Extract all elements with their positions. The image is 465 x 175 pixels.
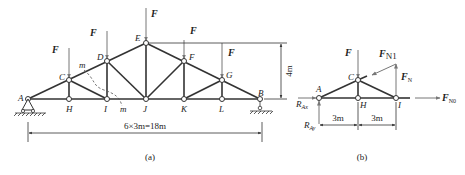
node-label-H: H xyxy=(65,104,73,114)
fb-dim-right-label: 3m xyxy=(371,113,383,123)
span-dimension: 6×3m=18m xyxy=(28,121,262,142)
load-label-F: F xyxy=(189,25,197,36)
section-label-top: m xyxy=(79,60,86,70)
node-H xyxy=(67,97,72,102)
free-body-b: F FN1 FN FN0 RAx RAy A C H I 3m 3m (b) xyxy=(295,47,456,162)
height-dimension: 4m xyxy=(148,43,294,99)
fb-node-label-A: A xyxy=(315,84,322,94)
span-dimension-label: 6×3m=18m xyxy=(124,121,166,131)
load-label-D: F xyxy=(89,27,97,38)
fb-reaction-x-label: RAx xyxy=(295,99,308,110)
top-chord-right xyxy=(146,43,260,99)
fb-node-label-H: H xyxy=(359,100,367,110)
top-chord-left xyxy=(28,43,146,99)
member-GK xyxy=(184,80,222,99)
fb-node-A xyxy=(317,96,322,101)
node-G xyxy=(220,78,225,83)
fb-node-label-I: I xyxy=(397,100,402,110)
node-label-L: L xyxy=(218,104,224,114)
node-label-I: I xyxy=(103,104,108,114)
fb-member-AC xyxy=(319,80,358,98)
node-label-E: E xyxy=(134,33,141,43)
fb-node-label-C: C xyxy=(348,72,355,82)
fb-member-CI xyxy=(358,80,396,98)
truss-diagram-svg: m m F F F F F A H I J K L B C D E xyxy=(0,0,465,175)
node-label-K: K xyxy=(180,104,188,114)
node-E xyxy=(144,41,149,46)
load-label-E: F xyxy=(150,8,158,19)
section-label-bottom: m xyxy=(120,104,127,114)
node-F xyxy=(182,59,187,64)
fb-reaction-y-label: RAy xyxy=(303,120,316,131)
fb-force-N0-label: FN0 xyxy=(441,92,456,104)
height-dimension-label: 4m xyxy=(284,65,294,77)
truss-a: m m F F F F F A H I J K L B C D E xyxy=(14,8,294,162)
node-I xyxy=(105,97,110,102)
node-label-F: F xyxy=(188,52,195,62)
node-label-C: C xyxy=(59,72,66,82)
node-label-G: G xyxy=(226,70,233,80)
caption-a: (a) xyxy=(145,152,155,162)
node-J xyxy=(144,97,149,102)
load-label-G: F xyxy=(227,47,235,58)
fb-load-label: F xyxy=(344,47,352,58)
node-L xyxy=(220,97,225,102)
load-label-C: F xyxy=(51,44,59,55)
member-FJ xyxy=(146,61,184,99)
caption-b: (b) xyxy=(357,152,368,162)
fb-node-C xyxy=(356,78,361,83)
node-D xyxy=(105,59,110,64)
section-line-m xyxy=(84,70,122,106)
fb-force-N1-label: FN1 xyxy=(378,48,397,61)
node-label-B: B xyxy=(258,88,264,98)
node-label-A: A xyxy=(17,93,24,103)
roller-support-B xyxy=(250,101,273,114)
fb-dim-left-label: 3m xyxy=(332,113,344,123)
fb-force-N-label: FN xyxy=(400,71,413,83)
node-label-J: J xyxy=(143,104,148,114)
fb-force-N1-arrow xyxy=(372,64,396,75)
node-C xyxy=(67,78,72,83)
node-label-D: D xyxy=(96,52,104,62)
member-CI xyxy=(69,80,107,99)
truss-figure: m m F F F F F A H I J K L B C D E xyxy=(0,0,465,175)
node-K xyxy=(182,97,187,102)
